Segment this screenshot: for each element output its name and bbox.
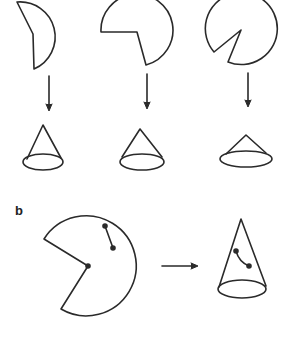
cone-1 (23, 125, 63, 170)
down-arrow-3 (245, 73, 251, 107)
cone-b (218, 219, 266, 298)
down-arrow-1 (46, 76, 52, 111)
sector-3 (205, 0, 277, 65)
cone-folding-diagram (0, 0, 293, 337)
cone-b-curve (234, 249, 251, 268)
sector-1 (17, 2, 55, 69)
cone-2 (120, 129, 164, 170)
cone-3 (220, 135, 272, 167)
down-arrow-2 (144, 74, 150, 109)
sector-2 (101, 0, 173, 65)
right-arrow (162, 263, 198, 269)
sector-b-apex-dot (86, 264, 90, 268)
sector-b-segment (103, 224, 115, 250)
